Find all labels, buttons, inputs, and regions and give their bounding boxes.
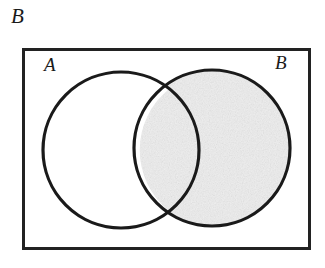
venn-circles-svg [0,0,325,268]
set-label-a: A [44,54,56,76]
set-label-b: B [275,52,287,74]
venn-diagram-figure: B [0,0,325,268]
